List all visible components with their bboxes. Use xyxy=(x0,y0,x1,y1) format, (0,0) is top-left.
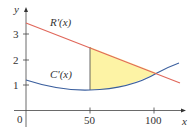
x-tick-label-100: 100 xyxy=(145,115,162,126)
x-tick-label-50: 50 xyxy=(84,115,95,126)
y-tick-label-2: 2 xyxy=(13,55,19,66)
y-tick-label-3: 3 xyxy=(13,29,19,40)
shaded-area xyxy=(90,47,157,90)
origin-label: 0 xyxy=(17,114,23,125)
y-tick-label-1: 1 xyxy=(13,80,19,91)
x-axis-label: x xyxy=(182,116,187,127)
x-axis-arrow-icon xyxy=(181,109,186,113)
c-prime-label: C'(x) xyxy=(50,69,72,80)
y-axis-label: y xyxy=(14,4,19,15)
r-prime-label: R'(x) xyxy=(50,17,71,28)
y-axis-arrow-icon xyxy=(24,7,28,12)
